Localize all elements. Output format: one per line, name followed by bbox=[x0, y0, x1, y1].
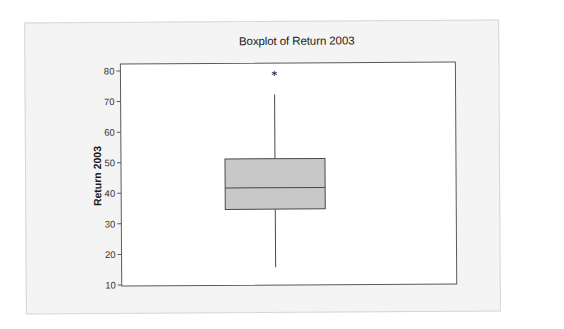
y-tick-label: 50 bbox=[104, 157, 115, 168]
y-tick-label: 10 bbox=[105, 280, 116, 291]
y-tick-label: 40 bbox=[105, 188, 116, 199]
y-axis-label: Return 2003 bbox=[91, 146, 103, 206]
y-tick-label: 70 bbox=[104, 96, 115, 107]
boxplot-svg: 1020304050607080 Return 2003 * bbox=[0, 0, 564, 329]
outlier-marker-icon: * bbox=[272, 69, 278, 82]
y-tick-label: 30 bbox=[105, 218, 116, 229]
iqr-box bbox=[225, 158, 325, 209]
y-tick-label: 80 bbox=[104, 66, 115, 77]
y-tick-label: 60 bbox=[104, 127, 115, 138]
median-line bbox=[225, 187, 325, 188]
y-tick-label: 20 bbox=[105, 249, 116, 260]
y-axis: 1020304050607080 bbox=[104, 65, 122, 290]
